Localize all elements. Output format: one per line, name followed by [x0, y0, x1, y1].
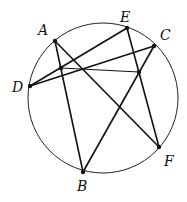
label-e: E [119, 9, 130, 25]
point-f [157, 145, 161, 149]
point-a [53, 39, 57, 43]
label-c: C [160, 27, 171, 43]
point-q [137, 70, 141, 74]
point-c [152, 44, 156, 48]
point-d [28, 84, 32, 88]
point-p [59, 66, 63, 70]
label-a: A [36, 22, 48, 38]
label-f: F [163, 153, 175, 169]
segment-a-f [55, 41, 159, 147]
segment-a-b [55, 41, 83, 172]
geometry-diagram: A E C D F B [0, 0, 187, 202]
point-e [125, 26, 129, 30]
label-d: D [11, 79, 23, 95]
point-b [81, 170, 85, 174]
label-b: B [76, 178, 87, 194]
